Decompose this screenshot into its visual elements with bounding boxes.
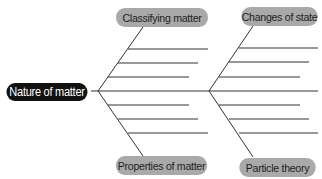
bone-properties <box>98 91 143 156</box>
category-changes-of-state: Changes of state <box>241 7 317 26</box>
bone-particle <box>209 91 253 157</box>
bone-changes <box>209 26 253 91</box>
head-label-nature-of-matter: Nature of matter <box>7 83 88 101</box>
category-classifying-matter: Classifying matter <box>116 8 208 27</box>
category-particle-theory: Particle theory <box>239 158 315 177</box>
bone-classifying <box>98 27 143 91</box>
category-properties-of-matter: Properties of matter <box>116 156 207 175</box>
